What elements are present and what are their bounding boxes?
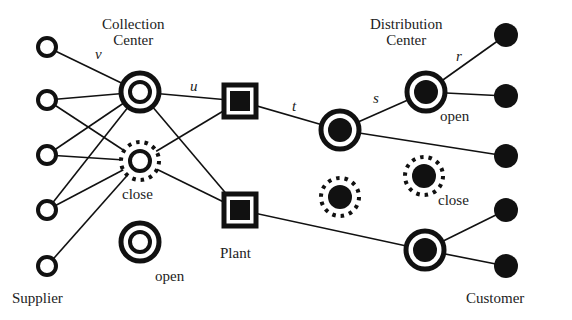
supplier-node-2 [38,91,56,109]
customer-label: Customer [466,290,524,306]
collection-center-title: Collection Center [102,16,165,48]
collection-center-title-line2: Center [102,32,165,48]
customer-node-4 [494,198,518,222]
dc-close-label: close [438,192,469,208]
supplier-node-5 [38,257,56,275]
network-canvas [0,0,572,320]
distribution-center-title: Distribution Center [370,16,443,48]
edge-label-s: s [373,90,379,106]
collection-center-node-2-close [121,142,159,180]
plant-node-1 [224,85,256,117]
distribution-center-node-5-open [406,231,444,269]
edge-label-t: t [292,98,296,114]
collection-center-title-line1: Collection [102,16,165,32]
plant-node-2 [224,194,256,226]
cc-close-label: close [122,186,153,202]
edge-label-v: v [95,46,102,62]
supplier-node-4 [38,201,56,219]
distribution-center-node-3-close [321,178,359,216]
collection-center-node-1-open [121,73,159,111]
plant-label: Plant [220,245,251,261]
collection-center-node-3-open [121,223,159,261]
distribution-center-node-4-close [405,157,443,195]
cc-open-label: open [155,268,184,284]
supplier-node-3 [38,146,56,164]
edge-label-u: u [190,78,198,94]
customer-node-2 [494,84,518,108]
dc-open-label: open [440,108,469,124]
customer-node-5 [494,254,518,278]
distribution-center-title-line2: Center [370,32,443,48]
edge-label-r: r [456,48,462,64]
customer-node-3 [494,144,518,168]
supplier-node-1 [38,38,56,56]
distribution-center-title-line1: Distribution [370,16,443,32]
distribution-center-node-2-open [407,73,445,111]
supply-chain-network-diagram: Collection Center Distribution Center Su… [0,0,572,320]
distribution-center-node-1-open [321,111,359,149]
customer-node-1 [494,23,518,47]
edge-DC1-C3 [340,130,506,156]
supplier-label: Supplier [12,290,63,306]
edges-layer [47,35,506,266]
